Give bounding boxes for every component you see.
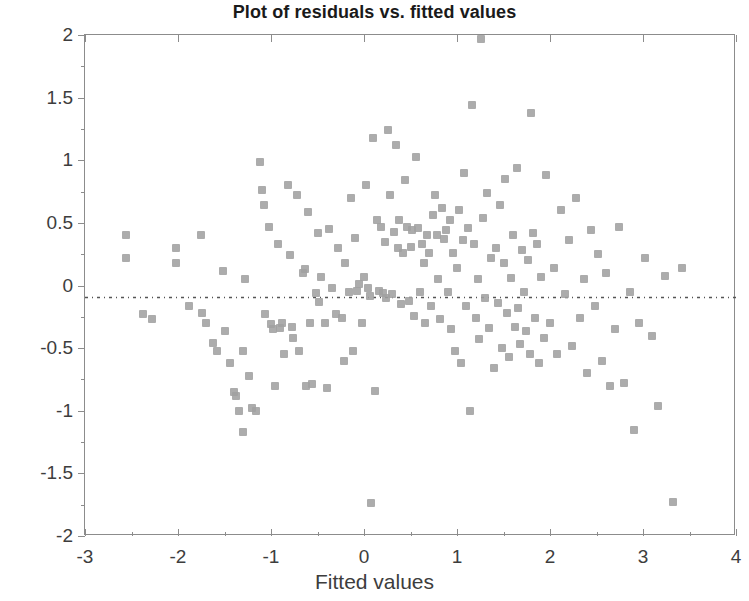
scatter-point: [483, 189, 491, 197]
scatter-point: [209, 339, 217, 347]
scatter-point: [219, 267, 227, 275]
y-axis-minor-tick: [81, 192, 85, 193]
scatter-point: [501, 175, 509, 183]
scatter-point: [580, 275, 588, 283]
x-axis-tick-label: 1: [427, 546, 487, 568]
scatter-point: [576, 314, 584, 322]
x-axis-tick: [364, 529, 365, 536]
scatter-point: [620, 379, 628, 387]
scatter-point: [414, 224, 422, 232]
scatter-point: [423, 231, 431, 239]
x-axis-tick-top: [457, 35, 458, 42]
x-axis-tick-label: 3: [613, 546, 673, 568]
scatter-point: [474, 275, 482, 283]
x-axis-tick-top: [364, 35, 365, 42]
scatter-point: [418, 240, 426, 248]
scatter-point: [654, 402, 662, 410]
scatter-point: [472, 314, 480, 322]
scatter-point: [522, 327, 530, 335]
scatter-point: [635, 319, 643, 327]
scatter-point: [583, 369, 591, 377]
scatter-point: [494, 299, 502, 307]
scatter-points-layer: [85, 35, 736, 536]
scatter-point: [405, 297, 413, 305]
scatter-point: [438, 204, 446, 212]
scatter-point: [518, 246, 526, 254]
scatter-point: [429, 211, 437, 219]
scatter-point: [464, 224, 472, 232]
x-axis-minor-tick: [318, 532, 319, 536]
scatter-point: [436, 315, 444, 323]
scatter-point: [529, 229, 537, 237]
x-axis-tick-top: [178, 35, 179, 42]
y-axis-tick: [78, 536, 85, 537]
y-axis-tick: [78, 223, 85, 224]
scatter-point: [527, 109, 535, 117]
scatter-point: [500, 259, 508, 267]
scatter-point: [459, 236, 467, 244]
scatter-point: [487, 254, 495, 262]
y-axis-minor-tick: [81, 505, 85, 506]
scatter-point: [444, 288, 452, 296]
scatter-point: [546, 319, 554, 327]
scatter-point: [503, 309, 511, 317]
scatter-point: [440, 235, 448, 243]
scatter-point: [392, 141, 400, 149]
scatter-point: [535, 359, 543, 367]
y-axis-tick: [78, 98, 85, 99]
y-axis-minor-tick: [81, 317, 85, 318]
x-axis-minor-tick: [597, 532, 598, 536]
scatter-point: [606, 382, 614, 390]
y-axis-tick-label: 1.5: [13, 87, 73, 109]
scatter-point: [239, 428, 247, 436]
scatter-point: [531, 314, 539, 322]
scatter-point: [598, 357, 606, 365]
scatter-point: [442, 226, 450, 234]
y-axis-tick: [78, 35, 85, 36]
scatter-point: [490, 364, 498, 372]
scatter-point: [410, 312, 418, 320]
scatter-point: [366, 292, 374, 300]
scatter-point: [317, 273, 325, 281]
scatter-point: [399, 249, 407, 257]
scatter-point: [460, 169, 468, 177]
scatter-point: [542, 171, 550, 179]
scatter-point: [388, 290, 396, 298]
x-axis-tick-label: -3: [55, 546, 115, 568]
y-axis-tick: [78, 348, 85, 349]
scatter-point: [271, 382, 279, 390]
scatter-point: [669, 498, 677, 506]
scatter-point: [455, 206, 463, 214]
residual-scatter-figure: Plot of residuals vs. fitted values -2-1…: [0, 0, 749, 601]
y-axis-tick-label: -1.5: [13, 462, 73, 484]
scatter-point: [431, 191, 439, 199]
scatter-point: [594, 250, 602, 258]
scatter-point: [479, 214, 487, 222]
scatter-point: [232, 392, 240, 400]
scatter-point: [505, 353, 513, 361]
scatter-point: [568, 342, 576, 350]
scatter-point: [550, 264, 558, 272]
scatter-point: [265, 223, 273, 231]
scatter-point: [367, 499, 375, 507]
scatter-point: [315, 298, 323, 306]
y-axis-minor-tick: [81, 254, 85, 255]
x-axis-tick: [643, 529, 644, 536]
scatter-point: [557, 206, 565, 214]
scatter-point: [258, 186, 266, 194]
scatter-point: [553, 350, 561, 358]
scatter-point: [122, 254, 130, 262]
scatter-point: [470, 240, 478, 248]
scatter-point: [630, 426, 638, 434]
y-axis-tick: [78, 411, 85, 412]
scatter-point: [477, 35, 485, 43]
scatter-point: [390, 228, 398, 236]
scatter-point: [524, 256, 532, 264]
scatter-point: [239, 347, 247, 355]
scatter-point: [369, 134, 377, 142]
scatter-point: [321, 319, 329, 327]
scatter-point: [295, 347, 303, 355]
scatter-point: [213, 347, 221, 355]
scatter-point: [540, 334, 548, 342]
scatter-point: [345, 288, 353, 296]
